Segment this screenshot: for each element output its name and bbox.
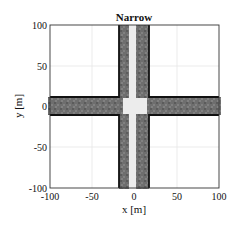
y-tick-labels: 100 50 0 -50 -100 bbox=[29, 20, 47, 194]
svg-text:100: 100 bbox=[32, 20, 47, 31]
svg-text:50: 50 bbox=[37, 61, 47, 72]
y-axis-label: y [m] bbox=[12, 94, 24, 118]
svg-text:-100: -100 bbox=[41, 191, 59, 202]
svg-text:50: 50 bbox=[172, 191, 182, 202]
svg-text:0: 0 bbox=[132, 191, 137, 202]
svg-text:-50: -50 bbox=[85, 191, 98, 202]
x-tick-labels: -100 -50 0 50 100 bbox=[41, 191, 227, 202]
svg-text:0: 0 bbox=[42, 101, 47, 112]
chart-title: Narrow bbox=[116, 11, 153, 23]
svg-text:100: 100 bbox=[212, 191, 227, 202]
chart-svg: 100 50 0 -50 -100 -100 -50 0 50 100 x [m… bbox=[0, 0, 238, 229]
x-axis-label: x [m] bbox=[122, 203, 146, 215]
svg-text:-50: -50 bbox=[34, 142, 47, 153]
